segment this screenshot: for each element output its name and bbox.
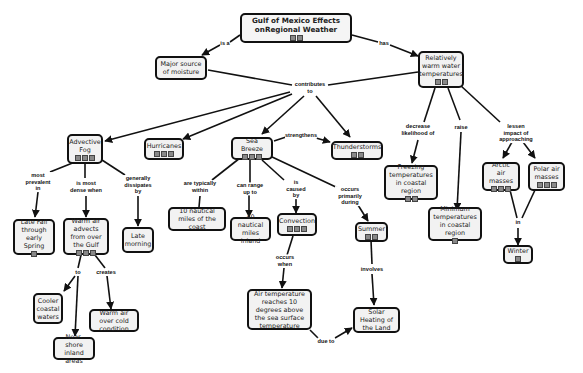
link-label: contributes to	[293, 81, 327, 94]
connector	[335, 328, 352, 338]
link-label: due to	[318, 338, 335, 345]
node-moisture[interactable]: Major source of moisture	[155, 56, 207, 80]
node-thunderstorms[interactable]: Thunderstorms	[331, 141, 383, 160]
node-label: Solar Heating of the Land	[358, 308, 395, 332]
concept-map-icon[interactable]	[515, 256, 521, 262]
connector	[424, 88, 435, 122]
node-advective-fog[interactable]: Advective Fog	[67, 134, 103, 164]
concept-map-icon[interactable]	[551, 182, 557, 188]
connector	[371, 240, 372, 264]
image-icon[interactable]	[537, 182, 543, 188]
node-hurricanes[interactable]: Hurricanes	[144, 138, 184, 160]
connector	[372, 274, 374, 305]
node-label: Summer	[358, 225, 385, 233]
doc-icon[interactable]	[82, 155, 88, 161]
node-label: Arctic air masses	[487, 161, 515, 185]
concept-map-icon[interactable]	[372, 234, 378, 240]
concept-map-icon[interactable]	[505, 186, 511, 192]
connector	[510, 190, 517, 218]
image-icon[interactable]	[452, 238, 458, 244]
doc-icon[interactable]	[544, 182, 550, 188]
concept-map-icon[interactable]	[89, 155, 95, 161]
connector	[107, 276, 111, 309]
connector	[102, 160, 125, 175]
concept-map-icon[interactable]	[358, 152, 364, 158]
link-label: most prevalent in	[24, 172, 52, 192]
connector	[448, 88, 460, 120]
node-label: Gulf of Mexico Effects onRegional Weathe…	[245, 16, 347, 34]
node-label: 40 nautical miles inland	[235, 213, 266, 245]
image-icon[interactable]	[242, 154, 248, 160]
concept-map-icon[interactable]	[31, 251, 37, 257]
node-label: Warm air over cold condition	[94, 309, 134, 333]
concept-map-icon[interactable]	[301, 226, 307, 232]
node-warm-over-cold[interactable]: Warm air over cold condition	[89, 309, 139, 332]
connector	[523, 142, 535, 158]
node-ten-nm[interactable]: 10 nautical miles of the coast	[168, 207, 226, 231]
connector	[282, 268, 284, 288]
doc-icon[interactable]	[161, 151, 167, 157]
image-icon[interactable]	[75, 155, 81, 161]
image-icon[interactable]	[287, 226, 293, 232]
node-late-fall[interactable]: Late Fall through early Spring	[13, 219, 55, 255]
connector	[316, 138, 330, 142]
connector	[212, 158, 240, 180]
node-label: Polar air masses	[533, 165, 560, 181]
connector	[287, 236, 293, 255]
node-sea-breeze[interactable]: Sea Breeze	[231, 137, 273, 160]
node-forty-nm[interactable]: 40 nautical miles inland	[230, 217, 271, 241]
image-icon[interactable]	[154, 151, 160, 157]
doc-icon[interactable]	[83, 250, 89, 256]
node-label: Thunderstorms	[333, 143, 382, 151]
connector	[522, 190, 535, 218]
link-label: occurs primarily during	[335, 186, 365, 206]
node-nearshore[interactable]: Near-shore inland areas	[53, 337, 95, 360]
connector	[262, 96, 304, 134]
node-label: Relatively warm water temperatures	[419, 54, 463, 78]
doc-icon[interactable]	[365, 234, 371, 240]
node-label: Warm air advects from over the Gulf	[68, 217, 104, 249]
node-late-morning[interactable]: Late morning	[122, 227, 154, 253]
node-label: Winter	[507, 247, 528, 255]
connector	[460, 85, 500, 122]
image-icon[interactable]	[76, 250, 82, 256]
node-summer[interactable]: Summer	[355, 222, 388, 242]
node-cooler[interactable]: Cooler coastal waters	[33, 293, 63, 324]
node-root[interactable]: Gulf of Mexico Effects onRegional Weathe…	[240, 13, 352, 43]
concept-map-icon[interactable]	[297, 35, 303, 41]
link-label: in	[516, 219, 521, 226]
image-icon[interactable]	[435, 79, 441, 85]
node-convection[interactable]: Convection	[277, 213, 317, 236]
concept-map-icon[interactable]	[442, 79, 448, 85]
doc-icon[interactable]	[294, 226, 300, 232]
concept-map-icon[interactable]	[168, 151, 174, 157]
node-freezing[interactable]: Freezing temperatures in coastal region	[384, 165, 438, 200]
node-minimum[interactable]: Minimum temperatures in coastal region	[428, 207, 482, 241]
node-air-temp[interactable]: Air temperature reaches 10 degrees above…	[247, 289, 312, 330]
doc-icon[interactable]	[405, 196, 411, 202]
node-polar[interactable]: Polar air masses	[528, 162, 565, 191]
doc-icon[interactable]	[290, 35, 296, 41]
image-icon[interactable]	[491, 186, 497, 192]
connector	[202, 45, 220, 55]
doc-icon[interactable]	[498, 186, 504, 192]
node-label: Late morning	[125, 232, 152, 248]
node-solar[interactable]: Solar Heating of the Land	[353, 307, 400, 333]
connector	[352, 35, 378, 42]
concept-map-icon[interactable]	[90, 250, 96, 256]
doc-icon[interactable]	[249, 154, 255, 160]
node-warm-water[interactable]: Relatively warm water temperatures	[418, 51, 464, 88]
link-label: can range up to	[235, 182, 265, 195]
node-arctic[interactable]: Arctic air masses	[482, 162, 520, 191]
link-label: raise	[454, 124, 467, 131]
concept-map-icon[interactable]	[256, 154, 262, 160]
doc-icon[interactable]	[351, 152, 357, 158]
node-warm-air[interactable]: Warm air advects from over the Gulf	[63, 218, 109, 255]
concept-map-icon[interactable]	[412, 196, 418, 202]
connector	[78, 255, 81, 268]
node-winter[interactable]: Winter	[503, 245, 533, 264]
node-label: 10 nautical miles of the coast	[173, 207, 221, 231]
connector	[75, 276, 78, 336]
connector	[316, 96, 350, 137]
link-label: generally dissipates by	[121, 175, 155, 195]
